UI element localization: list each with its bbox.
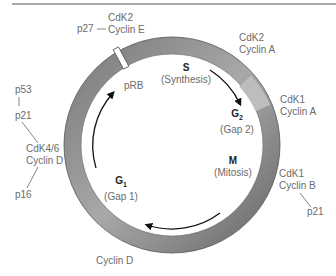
label-text: Cyclin A xyxy=(239,44,275,56)
cell-cycle-diagram xyxy=(0,0,336,276)
label-p53: p53 xyxy=(15,84,32,96)
cyclind-p16-connector xyxy=(27,167,38,188)
label-text: CdK4/6 xyxy=(26,143,63,155)
p21-cdk46-connector xyxy=(22,122,38,143)
arrow-m-to-g1 xyxy=(147,213,220,229)
label-p21-left: p21 xyxy=(15,110,32,122)
phase-name: S xyxy=(161,62,211,74)
cyclinb-p21-connector xyxy=(300,193,311,207)
phase-m: M (Mitosis) xyxy=(214,155,252,179)
phase-s: S (Synthesis) xyxy=(161,62,211,86)
phase-desc: (Mitosis) xyxy=(214,167,252,179)
label-cdk1-cyclin-a: CdK1 Cyclin A xyxy=(280,94,316,118)
label-text: CdK2 xyxy=(108,12,145,24)
label-cdk2-cyclin-a: CdK2 Cyclin A xyxy=(239,32,275,56)
phase-g1: G1 (Gap 1) xyxy=(104,175,138,203)
phase-name: G2 xyxy=(220,108,254,124)
arrow-g1-to-s xyxy=(93,93,113,168)
label-text: Cyclin D xyxy=(26,155,63,167)
label-text: Cyclin E xyxy=(108,24,145,36)
label-text: Cyclin B xyxy=(279,180,316,192)
phase-name: M xyxy=(214,155,252,167)
label-p27: p27 xyxy=(77,23,94,35)
label-p21-right: p21 xyxy=(307,206,324,218)
label-cdk1-cyclin-b: CdK1 Cyclin B xyxy=(279,168,316,192)
label-cdk46-cyclin-d: CdK4/6 Cyclin D xyxy=(26,143,63,167)
phase-g2: G2 (Gap 2) xyxy=(220,108,254,136)
label-prb: pRB xyxy=(124,80,143,92)
label-text: Cyclin A xyxy=(280,106,316,118)
phase-desc: (Gap 2) xyxy=(220,124,254,136)
phase-name: G1 xyxy=(104,175,138,191)
label-cdk2-cyclin-e: CdK2 Cyclin E xyxy=(108,12,145,36)
label-text: CdK2 xyxy=(239,32,275,44)
phase-desc: (Gap 1) xyxy=(104,191,138,203)
label-cyclin-d-bottom: Cyclin D xyxy=(96,255,133,267)
label-text: CdK1 xyxy=(279,168,316,180)
phase-desc: (Synthesis) xyxy=(161,74,211,86)
label-p16: p16 xyxy=(15,189,32,201)
label-text: CdK1 xyxy=(280,94,316,106)
